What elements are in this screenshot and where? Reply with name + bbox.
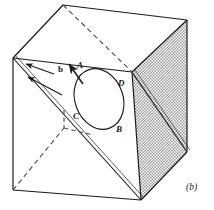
label-point-d: D <box>118 79 125 88</box>
label-point-a: A <box>77 61 83 70</box>
figure-container: b A D C B (b) <box>0 0 214 210</box>
figure-caption: (b) <box>186 182 197 192</box>
label-point-c: C <box>73 112 79 121</box>
cube-slip-plane-diagram <box>0 0 214 210</box>
label-point-b: B <box>116 125 122 134</box>
label-burgers-vector: b <box>58 65 63 74</box>
